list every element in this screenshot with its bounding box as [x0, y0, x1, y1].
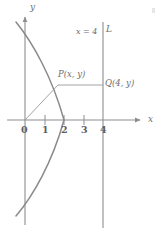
directrix-equation-label: x = 4 [76, 28, 97, 36]
directrix-name-label: L [106, 25, 112, 34]
tick-label-4: 4 [100, 125, 107, 135]
x-axis-label: x [148, 115, 153, 124]
tick-label-3: 3 [81, 125, 88, 135]
point-Q-label: Q(4, y) [105, 79, 134, 88]
point-P-label: P(x, y) [58, 70, 85, 79]
parabola-curve [16, 22, 64, 216]
tick-label-1: 1 [42, 125, 49, 135]
y-axis-label: y [30, 3, 35, 12]
geometry-figure: y x 0 1 2 3 4 x = 4 L P(x, y) Q(4, y) [0, 0, 161, 232]
tick-label-0: 0 [21, 125, 28, 135]
scan-artifact-mark [152, 8, 155, 13]
tick-label-2: 2 [61, 125, 68, 135]
segment-origin-to-P [25, 85, 58, 120]
